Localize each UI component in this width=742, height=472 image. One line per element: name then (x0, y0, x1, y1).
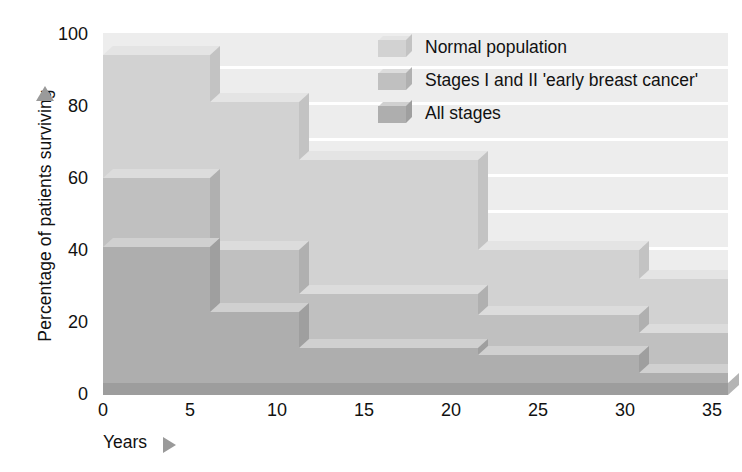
series-all-stages-step-0 (103, 247, 210, 395)
x-axis-tick-15: 15 (344, 401, 384, 419)
triangle-right-icon (163, 437, 176, 453)
legend-label: Normal population (425, 32, 567, 62)
legend-swatch-icon (378, 36, 412, 57)
legend-label: Stages I and II 'early breast cancer' (425, 65, 698, 95)
x-axis-tick-25: 25 (518, 401, 558, 419)
legend-swatch-icon (378, 69, 412, 90)
y-axis-tick-60: 60 (42, 169, 88, 187)
x-axis-tick-10: 10 (257, 401, 297, 419)
chart-figure: Percentage of patients surviving 100 80 … (0, 0, 742, 472)
legend-swatch-icon (378, 102, 412, 123)
x-axis-tick-5: 5 (170, 401, 210, 419)
x-axis-baseline (103, 383, 728, 395)
x-axis-tick-35: 35 (692, 401, 732, 419)
x-axis-tick-20: 20 (431, 401, 471, 419)
y-axis-tick-0: 0 (42, 385, 88, 403)
y-axis-tick-80: 80 (42, 97, 88, 115)
legend-label: All stages (425, 98, 501, 128)
y-axis-tick-20: 20 (42, 313, 88, 331)
legend-item-normal-population: Normal population (378, 32, 728, 65)
x-axis-title: Years (103, 432, 147, 453)
y-axis-tick-40: 40 (42, 241, 88, 259)
legend-item-all-stages: All stages (378, 98, 728, 131)
chart-legend: Normal population Stages I and II 'early… (378, 32, 728, 131)
y-axis-tick-100: 100 (42, 25, 88, 43)
x-axis-tick-30: 30 (605, 401, 645, 419)
x-axis-tick-0: 0 (83, 401, 123, 419)
legend-item-early-breast-cancer: Stages I and II 'early breast cancer' (378, 65, 728, 98)
